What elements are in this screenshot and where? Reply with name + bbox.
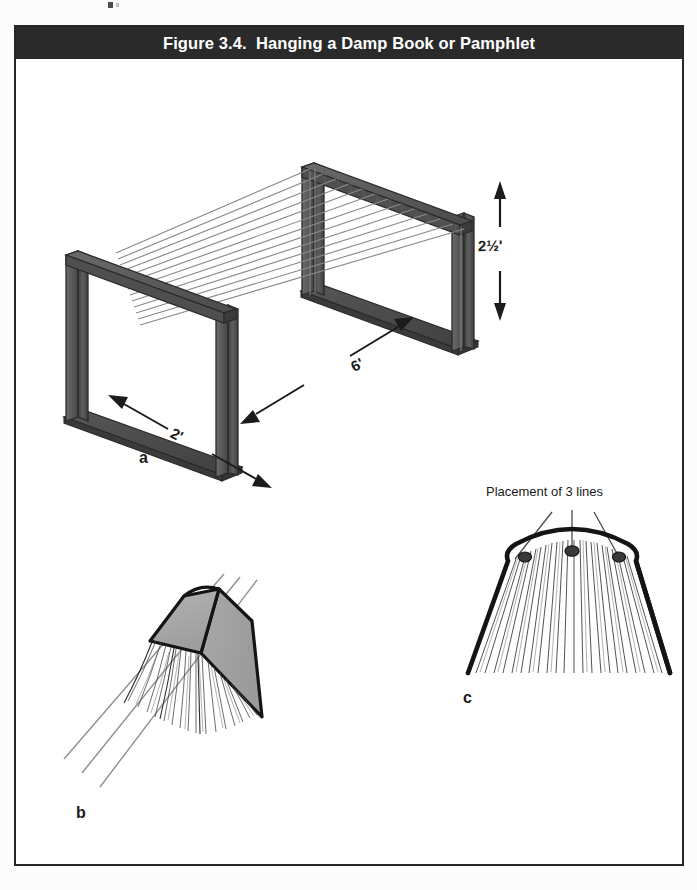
figure-header-bar: Figure 3.4. Hanging a Damp Book or Pamph… (16, 27, 682, 59)
scan-artifact-speck-secondary (116, 3, 119, 7)
subfigure-c-drawing (16, 59, 686, 866)
subfigure-label-a: a (139, 449, 148, 467)
subfigure-label-b: b (76, 804, 86, 822)
subfigure-label-c: c (463, 689, 472, 707)
figure-title: Figure 3.4. Hanging a Damp Book or Pamph… (163, 34, 535, 53)
scan-artifact-speck (108, 2, 113, 8)
figure-body: 2½' 6' 2' a b c Placement of 3 lines (16, 59, 682, 866)
subfigure-c-caption: Placement of 3 lines (486, 484, 603, 499)
dimension-label-height: 2½' (478, 237, 503, 254)
figure-container: Figure 3.4. Hanging a Damp Book or Pamph… (14, 25, 684, 866)
